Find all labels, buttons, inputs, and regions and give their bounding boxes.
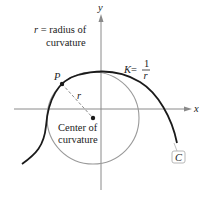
curvature-denominator: r: [144, 70, 149, 81]
curvature-equals: =: [131, 64, 137, 75]
curve-label: C: [175, 152, 183, 163]
center-label-line1: Center of: [58, 122, 98, 133]
y-axis-label: y: [97, 2, 103, 13]
x-axis-label: x: [193, 103, 199, 114]
y-axis-arrow-icon: [99, 14, 104, 22]
x-axis-arrow-icon: [184, 107, 192, 112]
radius-definition-line2: curvature: [46, 37, 86, 48]
radius-definition-line1: r = radius of: [34, 24, 87, 35]
curvature-formula: K = 1 r: [123, 58, 150, 81]
curvature-numerator: 1: [144, 58, 149, 69]
radius-label: r: [77, 90, 82, 101]
curve-c: [22, 72, 177, 164]
point-p: [60, 82, 64, 86]
point-p-label: P: [53, 71, 61, 82]
center-point: [91, 116, 95, 120]
callout-pointer: [174, 143, 177, 151]
radius-def-text: = radius of: [38, 24, 87, 35]
center-label-line2: curvature: [58, 134, 98, 145]
curve-label-callout: C: [172, 143, 185, 163]
axes: [14, 14, 192, 190]
curvature-diagram: y x r = radius of curvature P r Center o…: [0, 0, 213, 199]
